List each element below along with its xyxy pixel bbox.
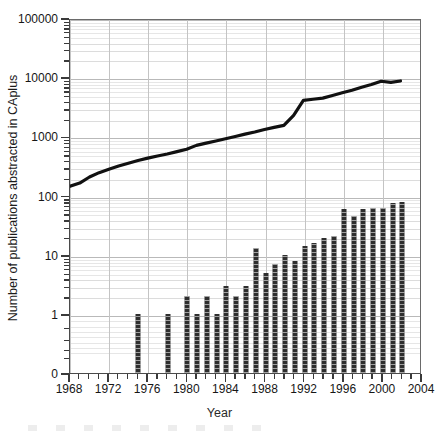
gridline-minor: [70, 215, 420, 216]
x-tick-minor: [98, 374, 99, 379]
x-tick-minor: [332, 374, 333, 379]
y-tick-label: 100: [2, 190, 58, 204]
scan-artifact: [28, 425, 278, 431]
x-tick-minor: [254, 374, 255, 379]
y-tick: [61, 255, 69, 257]
bar: [400, 202, 405, 373]
y-tick-label: 100000: [2, 12, 58, 26]
bar: [224, 286, 229, 373]
bar: [322, 238, 327, 373]
x-tick-minor: [352, 374, 353, 379]
gridline-minor: [70, 200, 420, 201]
gridline-minor: [70, 92, 420, 93]
bar: [341, 209, 346, 373]
x-tick-minor: [88, 374, 89, 379]
x-tick-minor: [205, 374, 206, 379]
bar: [292, 261, 297, 374]
x-tick-minor: [195, 374, 196, 379]
bar: [273, 264, 278, 373]
chart-figure: Number of publications abstracted in CAp…: [0, 0, 439, 434]
gridline-minor: [70, 221, 420, 222]
gridline-minor: [70, 211, 420, 212]
x-tick-minor: [176, 374, 177, 379]
x-tick-label: 2004: [408, 382, 435, 396]
gridline-minor: [70, 148, 420, 149]
x-tick: [342, 374, 344, 382]
x-tick: [107, 374, 109, 382]
gridline-minor: [70, 169, 420, 170]
x-tick: [146, 374, 148, 382]
gridline-minor: [70, 162, 420, 163]
bar: [351, 216, 356, 373]
x-tick-minor: [371, 374, 372, 379]
bar: [234, 296, 239, 373]
gridline-minor: [70, 61, 420, 62]
y-tick: [61, 196, 69, 198]
gridline-major: [70, 198, 420, 199]
gridline-minor: [70, 275, 420, 276]
bar: [244, 286, 249, 373]
plot-area: [69, 19, 421, 374]
bar: [253, 248, 258, 373]
gridline-minor: [70, 121, 420, 122]
gridline-minor: [70, 82, 420, 83]
gridline-major: [70, 257, 420, 258]
bar: [283, 255, 288, 373]
y-tick-label: 10000: [2, 71, 58, 85]
x-tick-minor: [313, 374, 314, 379]
bar: [371, 208, 376, 373]
gridline-minor: [70, 266, 420, 267]
x-tick-minor: [293, 374, 294, 379]
gridline-minor: [70, 229, 420, 230]
x-tick: [225, 374, 227, 382]
y-tick-label: 10: [2, 249, 58, 263]
bar: [263, 273, 268, 373]
gridline-minor: [70, 88, 420, 89]
x-tick-minor: [156, 374, 157, 379]
x-axis-title: Year: [0, 406, 439, 420]
x-tick-minor: [127, 374, 128, 379]
x-tick-minor: [244, 374, 245, 379]
gridline-vertical: [109, 20, 110, 373]
bar: [204, 296, 209, 373]
x-tick-minor: [401, 374, 402, 379]
gridline-minor: [70, 110, 420, 111]
x-tick-minor: [410, 374, 411, 379]
x-tick-minor: [322, 374, 323, 379]
gridline-vertical: [70, 20, 71, 373]
x-tick-label: 2000: [369, 382, 396, 396]
y-tick: [61, 314, 69, 316]
x-tick-minor: [137, 374, 138, 379]
gridline-minor: [70, 263, 420, 264]
bar: [332, 236, 337, 373]
x-tick-label: 1984: [212, 382, 239, 396]
y-tick: [61, 18, 69, 20]
bar: [312, 243, 317, 373]
x-tick-minor: [362, 374, 363, 379]
x-tick-minor: [166, 374, 167, 379]
x-tick-minor: [283, 374, 284, 379]
y-tick: [61, 137, 69, 139]
gridline-minor: [70, 144, 420, 145]
bar: [390, 203, 395, 373]
x-tick: [264, 374, 266, 382]
gridline-minor: [70, 23, 420, 24]
gridline-minor: [70, 85, 420, 86]
y-tick-label: 1000: [2, 130, 58, 144]
gridline-minor: [70, 180, 420, 181]
bar: [214, 314, 219, 373]
gridline-minor: [70, 33, 420, 34]
gridline-minor: [70, 280, 420, 281]
x-tick: [68, 374, 70, 382]
x-tick-minor: [391, 374, 392, 379]
x-tick-label: 1988: [251, 382, 278, 396]
gridline-major: [70, 20, 420, 21]
y-tick: [61, 77, 69, 79]
y-tick-label: 0: [2, 367, 58, 381]
bar: [165, 314, 170, 373]
gridline-vertical: [148, 20, 149, 373]
x-tick-minor: [78, 374, 79, 379]
x-tick: [381, 374, 383, 382]
x-tick: [303, 374, 305, 382]
gridline-minor: [70, 203, 420, 204]
